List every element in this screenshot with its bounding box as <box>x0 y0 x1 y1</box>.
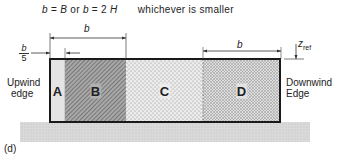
region-c: C <box>126 59 203 122</box>
region-d: D <box>203 59 280 122</box>
region-c-label: C <box>159 83 170 98</box>
region-b: B <box>65 59 126 122</box>
ground-surface <box>20 122 310 142</box>
panel-label: (d) <box>4 143 16 154</box>
formula-val-1: B <box>60 4 67 15</box>
formula-eq-2: = <box>92 4 98 15</box>
region-d-label: D <box>236 83 247 98</box>
region-b-label: B <box>90 83 101 98</box>
region-a-label: A <box>53 83 62 98</box>
left-b-label: b <box>84 23 90 34</box>
zref-label: zref <box>298 38 311 51</box>
formula-val-2: H <box>110 4 118 15</box>
formula-var-1: b <box>42 4 48 15</box>
downwind-edge-label: Downwind Edge <box>286 77 332 99</box>
downwind-line2: Edge <box>286 88 332 99</box>
upwind-line1: Upwind <box>7 77 40 88</box>
upwind-line2: edge <box>7 88 40 99</box>
formula-coef-2: 2 <box>101 4 107 15</box>
formula-text: b = B or b = 2 H whichever is smaller <box>42 4 234 15</box>
formula-var-2: b <box>83 4 89 15</box>
formula-eq-1: = <box>51 4 57 15</box>
fraction-denominator: 5 <box>19 53 29 63</box>
fraction-numerator: b <box>19 44 29 53</box>
formula-or: or <box>70 4 80 15</box>
downwind-line1: Downwind <box>286 77 332 88</box>
b-over-5-label: b 5 <box>19 44 29 63</box>
right-b-label: b <box>237 39 243 50</box>
upwind-edge-label: Upwind edge <box>7 77 40 99</box>
formula-note: whichever is smaller <box>138 4 234 15</box>
zref-sub: ref <box>303 44 311 51</box>
region-a: A <box>50 59 65 122</box>
